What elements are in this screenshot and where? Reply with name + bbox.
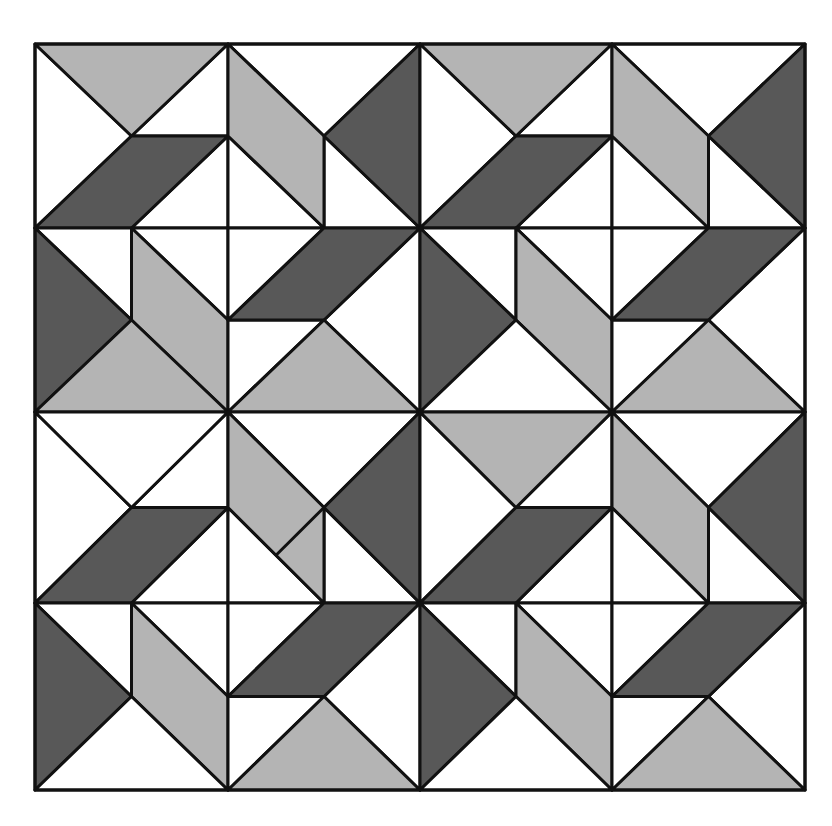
tile-grid (35, 44, 805, 790)
quilt-pattern (0, 0, 832, 826)
